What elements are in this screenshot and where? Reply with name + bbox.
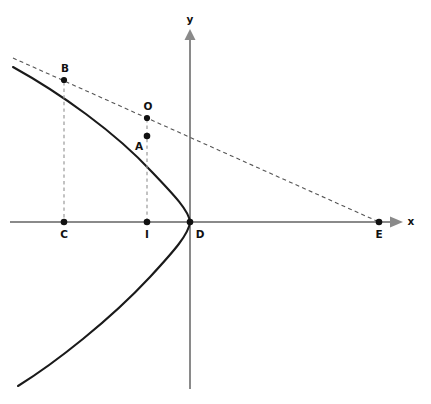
point-O-dot (144, 115, 150, 121)
point-E-dot (376, 219, 383, 226)
y-axis-arrowhead (185, 29, 196, 40)
geometry-figure: x y B O A C I D E (0, 0, 431, 404)
point-C-dot (61, 219, 68, 226)
point-O-label: O (144, 100, 153, 112)
tangent-line-BE (13, 58, 379, 222)
point-A-label: A (135, 140, 144, 152)
point-D-label: D (196, 228, 205, 240)
point-I-label: I (145, 228, 149, 240)
y-axis-label: y (187, 13, 194, 25)
point-C-label: C (60, 228, 68, 240)
point-I-dot (144, 219, 151, 226)
points-group: B O A C I D E (60, 62, 382, 240)
parabola-curve (13, 67, 190, 386)
point-D-dot (187, 219, 194, 226)
x-axis-label: x (408, 215, 415, 227)
point-A-dot (144, 133, 151, 140)
axes-group: x y (10, 13, 415, 389)
cut-off-caption (0, 395, 431, 404)
point-E-label: E (375, 228, 382, 240)
point-B-label: B (61, 62, 69, 74)
x-axis-arrowhead (390, 217, 403, 228)
geometry-canvas: x y B O A C I D E (0, 0, 431, 404)
point-B-dot (61, 77, 67, 83)
